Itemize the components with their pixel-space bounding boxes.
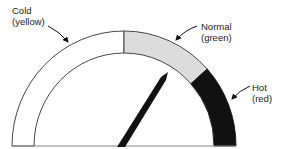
label-cold-color: (yellow) xyxy=(12,16,45,27)
label-hot: Hot (red) xyxy=(252,82,272,104)
label-normal-name: Normal xyxy=(201,21,232,32)
label-cold-name: Cold xyxy=(12,5,45,16)
cold-pointer-arrow xyxy=(48,26,68,42)
label-normal: Normal (green) xyxy=(201,21,232,43)
label-normal-color: (green) xyxy=(201,32,232,43)
label-cold: Cold (yellow) xyxy=(12,5,45,27)
normal-pointer-arrow xyxy=(176,26,197,40)
gauge-needle xyxy=(117,72,168,147)
hot-pointer-arrow xyxy=(232,86,250,99)
label-hot-color: (red) xyxy=(252,93,272,104)
label-hot-name: Hot xyxy=(252,82,272,93)
gauge-zone-cold xyxy=(12,31,124,146)
gauge-zone-hot xyxy=(191,69,236,146)
